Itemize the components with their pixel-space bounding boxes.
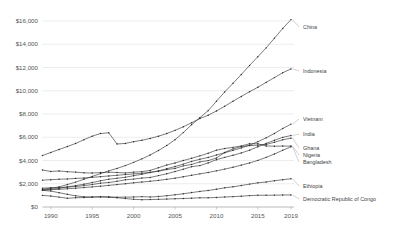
- data-point: [207, 115, 208, 116]
- data-point: [133, 175, 134, 176]
- data-point: [158, 199, 159, 200]
- data-point: [257, 87, 258, 88]
- data-point: [183, 193, 184, 194]
- data-point: [108, 179, 109, 180]
- data-point: [125, 165, 126, 166]
- data-point: [75, 181, 76, 182]
- data-point: [274, 77, 275, 78]
- data-point: [232, 148, 233, 149]
- data-point: [166, 164, 167, 165]
- data-point: [166, 173, 167, 174]
- data-point: [249, 91, 250, 92]
- data-point: [166, 195, 167, 196]
- data-point: [125, 174, 126, 175]
- series-line-indonesia: [43, 69, 292, 156]
- y-axis-tick-label: $12,000: [16, 64, 39, 71]
- data-point: [257, 143, 258, 144]
- data-point: [158, 170, 159, 171]
- data-point: [282, 145, 283, 146]
- data-point: [91, 186, 92, 187]
- chart-canvas: $0$2,000$4,000$6,000$8,000$10,000$12,000…: [0, 0, 395, 237]
- data-point: [75, 186, 76, 187]
- data-point: [141, 171, 142, 172]
- data-point: [216, 170, 217, 171]
- data-point: [141, 199, 142, 200]
- data-point: [232, 83, 233, 84]
- data-point: [125, 198, 126, 199]
- data-point: [67, 184, 68, 185]
- data-point: [50, 171, 51, 172]
- data-point: [199, 165, 200, 166]
- data-point: [282, 137, 283, 138]
- data-point: [166, 169, 167, 170]
- data-point: [125, 177, 126, 178]
- y-axis-tick-label: $6,000: [19, 133, 38, 140]
- data-point: [108, 185, 109, 186]
- data-point: [125, 179, 126, 180]
- data-point: [191, 164, 192, 165]
- data-point: [207, 153, 208, 154]
- data-point: [207, 172, 208, 173]
- data-point: [199, 155, 200, 156]
- data-point: [290, 137, 291, 138]
- data-point: [216, 101, 217, 102]
- data-point: [58, 196, 59, 197]
- data-point: [274, 194, 275, 195]
- data-point: [174, 198, 175, 199]
- data-point: [158, 175, 159, 176]
- data-point: [108, 197, 109, 198]
- data-point: [232, 186, 233, 187]
- data-point: [183, 169, 184, 170]
- label-leader-line: [293, 119, 300, 124]
- data-point: [216, 197, 217, 198]
- y-axis-tick-label: $4,000: [19, 157, 38, 164]
- label-leader-line: [293, 147, 300, 162]
- data-point: [91, 172, 92, 173]
- data-point: [141, 158, 142, 159]
- data-point: [241, 96, 242, 97]
- data-point: [183, 165, 184, 166]
- data-point: [149, 196, 150, 197]
- data-point: [91, 184, 92, 185]
- data-point: [183, 198, 184, 199]
- data-point: [58, 187, 59, 188]
- data-point: [290, 194, 291, 195]
- data-point: [290, 68, 291, 69]
- data-point: [265, 181, 266, 182]
- data-point: [116, 143, 117, 144]
- x-axis-tick-label: 2019: [284, 212, 298, 219]
- data-point: [116, 168, 117, 169]
- data-point: [232, 147, 233, 148]
- data-point: [241, 147, 242, 148]
- data-point: [199, 159, 200, 160]
- data-point: [133, 178, 134, 179]
- data-point: [83, 139, 84, 140]
- data-point: [50, 189, 51, 190]
- data-point: [290, 135, 291, 136]
- data-point: [83, 184, 84, 185]
- data-point: [257, 56, 258, 57]
- data-point: [282, 139, 283, 140]
- label-leader-line: [293, 20, 300, 27]
- series-label-indonesia: Indonesia: [303, 68, 326, 74]
- x-axis-tick-label: 2010: [210, 212, 224, 219]
- data-point: [290, 19, 291, 20]
- data-point: [207, 162, 208, 163]
- data-point: [224, 157, 225, 158]
- series-label-leaders: [293, 20, 300, 199]
- data-point: [282, 150, 283, 151]
- series-label-vietnam: Vietnam: [303, 116, 323, 122]
- data-point: [116, 178, 117, 179]
- data-point: [108, 175, 109, 176]
- data-point: [166, 179, 167, 180]
- data-point: [224, 91, 225, 92]
- data-point: [174, 162, 175, 163]
- data-point: [100, 176, 101, 177]
- data-point: [282, 194, 283, 195]
- data-point: [249, 162, 250, 163]
- data-point: [249, 143, 250, 144]
- data-point: [241, 164, 242, 165]
- data-point: [274, 133, 275, 134]
- data-point: [174, 177, 175, 178]
- data-point: [174, 168, 175, 169]
